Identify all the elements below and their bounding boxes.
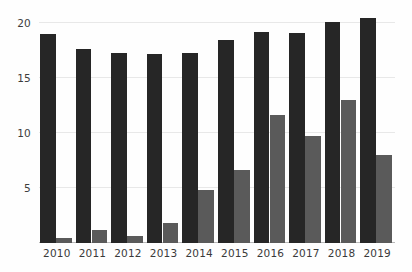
bar-group xyxy=(181,12,217,243)
bar-group xyxy=(146,12,182,243)
bar xyxy=(198,190,214,243)
bar-chart: 5101520 20102011201220132014201520162017… xyxy=(0,0,412,272)
bar-group xyxy=(217,12,253,243)
plot-area xyxy=(39,12,395,243)
y-tick-label-20: 20 xyxy=(1,18,31,29)
bar xyxy=(305,136,321,243)
bar xyxy=(147,54,163,243)
x-tick-label-2016: 2016 xyxy=(253,248,289,259)
x-tick-label-2012: 2012 xyxy=(110,248,146,259)
x-tick-label-2013: 2013 xyxy=(146,248,182,259)
x-tick-label-2015: 2015 xyxy=(217,248,253,259)
x-axis-tick-labels: 2010201120122013201420152016201720182019 xyxy=(39,248,395,264)
bar xyxy=(40,34,56,243)
bar xyxy=(56,238,72,244)
bar-group xyxy=(324,12,360,243)
bar-group xyxy=(75,12,111,243)
bar xyxy=(376,155,392,243)
bar xyxy=(218,40,234,244)
bar-group xyxy=(359,12,395,243)
x-tick-label-2010: 2010 xyxy=(39,248,75,259)
bar xyxy=(325,22,341,243)
bars-layer xyxy=(39,12,395,243)
x-tick-label-2014: 2014 xyxy=(181,248,217,259)
bar xyxy=(234,170,250,243)
x-tick-label-2011: 2011 xyxy=(75,248,111,259)
y-tick-label-5: 5 xyxy=(1,183,31,194)
x-tick-label-2017: 2017 xyxy=(288,248,324,259)
bar xyxy=(254,32,270,243)
bar xyxy=(127,236,143,243)
y-tick-label-15: 15 xyxy=(1,73,31,84)
bar xyxy=(360,18,376,244)
bar xyxy=(289,33,305,243)
bar xyxy=(92,230,108,243)
x-tick-label-2018: 2018 xyxy=(324,248,360,259)
bar xyxy=(76,49,92,243)
y-tick-label-10: 10 xyxy=(1,128,31,139)
bar-group xyxy=(253,12,289,243)
bar xyxy=(182,53,198,243)
x-tick-label-2019: 2019 xyxy=(359,248,395,259)
bar-group xyxy=(288,12,324,243)
bar xyxy=(163,223,179,243)
bar xyxy=(341,100,357,243)
bar xyxy=(270,115,286,243)
bar-group xyxy=(110,12,146,243)
bar xyxy=(111,53,127,243)
bar-group xyxy=(39,12,75,243)
